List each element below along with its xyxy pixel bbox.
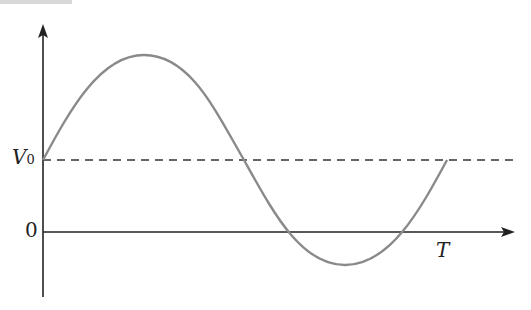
zero-label: 0 bbox=[25, 218, 38, 242]
sine-diagram bbox=[0, 0, 531, 310]
v0-label: V0 bbox=[12, 145, 35, 169]
v0-label-subscript: 0 bbox=[26, 152, 34, 167]
t-axis-label: T bbox=[436, 238, 449, 262]
v0-label-main: V bbox=[12, 145, 26, 169]
